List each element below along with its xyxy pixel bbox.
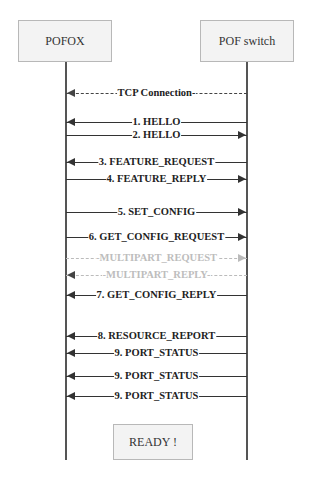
message-hello-1: 1. HELLO: [66, 115, 247, 129]
arrow-right-icon: [238, 208, 246, 216]
message-label: 4. FEATURE_REPLY: [106, 172, 208, 186]
message-label: 3. FEATURE_REQUEST: [98, 155, 215, 169]
message-port-status: 9. PORT_STATUS: [66, 389, 247, 403]
message-get-config-request: 6. GET_CONFIG_REQUEST: [66, 230, 247, 244]
participant-pof-switch: POF switch: [200, 20, 294, 62]
ready-state-label: READY !: [129, 435, 177, 450]
message-tcp-connection: TCP Connection-: [66, 86, 247, 100]
message-set-config: 5. SET_CONFIG: [66, 205, 247, 219]
message-label: -MULTIPART_REPLY-: [102, 268, 212, 282]
message-label: 8. RESOURCE_REPORT: [97, 329, 216, 343]
participant-pofox: POFOX: [18, 20, 112, 62]
message-label: 2. HELLO: [132, 128, 182, 142]
arrow-left-icon: [67, 271, 75, 279]
arrow-right-icon: [238, 233, 246, 241]
message-label: 5. SET_CONFIG: [117, 205, 197, 219]
message-label: 6. GET_CONFIG_REQUEST: [88, 230, 225, 244]
arrow-right-icon: [238, 131, 246, 139]
message-port-status: 9. PORT_STATUS: [66, 346, 247, 360]
arrow-left-icon: [67, 118, 75, 126]
message-multipart-request: -MULTIPART_REQUEST: [66, 251, 247, 265]
arrow-left-icon: [67, 291, 75, 299]
message-resource-report: 8. RESOURCE_REPORT: [66, 329, 247, 343]
message-label: 1. HELLO: [132, 115, 182, 129]
arrow-left-icon: [67, 89, 75, 97]
arrow-left-icon: [67, 372, 75, 380]
participant-pofox-label: POFOX: [45, 34, 84, 49]
message-label: -MULTIPART_REQUEST: [95, 251, 218, 265]
message-feature-request: 3. FEATURE_REQUEST: [66, 155, 247, 169]
message-hello-2: 2. HELLO: [66, 128, 247, 142]
message-label: 9. PORT_STATUS: [114, 369, 200, 383]
message-feature-reply: 4. FEATURE_REPLY: [66, 172, 247, 186]
message-multipart-reply: -MULTIPART_REPLY-: [66, 268, 247, 282]
message-port-status: 9. PORT_STATUS: [66, 369, 247, 383]
arrow-right-icon: [238, 175, 246, 183]
message-label: TCP Connection-: [117, 86, 197, 100]
participant-pof-switch-label: POF switch: [219, 34, 275, 49]
arrow-left-icon: [67, 349, 75, 357]
arrow-left-icon: [67, 392, 75, 400]
message-label: 7. GET_CONFIG_REPLY: [96, 288, 218, 302]
message-get-config-reply: 7. GET_CONFIG_REPLY: [66, 288, 247, 302]
message-label: 9. PORT_STATUS: [114, 389, 200, 403]
arrow-left-icon: [67, 332, 75, 340]
arrow-left-icon: [67, 158, 75, 166]
message-label: 9. PORT_STATUS: [114, 346, 200, 360]
arrow-right-icon: [238, 254, 246, 262]
ready-state-box: READY !: [113, 424, 193, 460]
